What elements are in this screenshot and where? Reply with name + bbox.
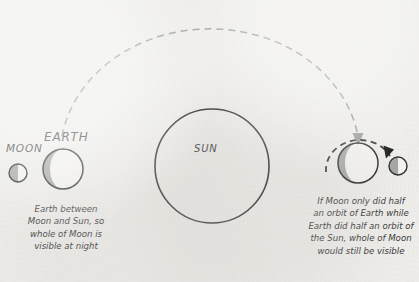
right-caption: If Moon only did half an orbit of Earth …	[303, 195, 419, 257]
right-caption-line-1: If Moon only did half	[303, 195, 419, 207]
right-caption-line-4: the Sun, whole of Moon	[303, 232, 419, 244]
left-caption: Earth between Moon and Sun, so whole of …	[2, 203, 130, 253]
astronomy-diagram: MOON EARTH SUN Earth between Moon and Su…	[0, 0, 419, 282]
moon-label: MOON	[6, 142, 43, 154]
sun-label: SUN	[194, 143, 218, 154]
left-caption-line-2: Moon and Sun, so	[2, 215, 130, 227]
moon-orbit-arrow-icon	[384, 146, 395, 159]
earth-left-body	[43, 149, 83, 189]
left-caption-line-3: whole of Moon is	[2, 228, 130, 240]
right-caption-line-2: an orbit of Earth while	[303, 207, 419, 219]
left-caption-line-4: visible at night	[2, 240, 130, 252]
earth-orbit-path	[62, 29, 358, 136]
moon-left-body	[7, 162, 27, 184]
moon-right-body	[387, 155, 407, 177]
earth-label: EARTH	[44, 130, 88, 144]
earth-right-body	[338, 143, 378, 183]
right-caption-line-5: would still be visible	[303, 245, 419, 257]
right-caption-line-3: Earth did half an orbit of	[303, 220, 419, 232]
sun-body	[155, 109, 269, 223]
left-caption-line-1: Earth between	[2, 203, 130, 215]
